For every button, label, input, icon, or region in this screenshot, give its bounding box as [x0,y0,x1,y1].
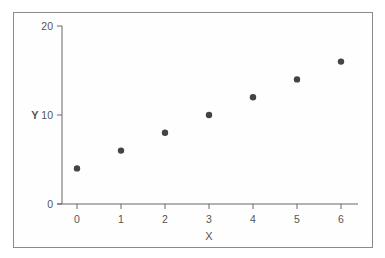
data-point [338,58,344,64]
y-tick-label: 20 [41,20,53,32]
x-tick-label: 1 [118,213,124,225]
x-tick-label: 6 [338,213,344,225]
x-tick-label: 4 [250,213,256,225]
x-tick-label: 2 [162,213,168,225]
y-axis-label: Y [31,109,39,121]
data-points [74,58,344,171]
data-point [118,147,124,153]
data-point [206,112,212,118]
y-tick-label: 0 [47,198,53,210]
scatter-plot: 010200123456 X Y [0,0,385,258]
x-tick-label: 3 [206,213,212,225]
data-point [294,76,300,82]
x-axis-label: X [205,230,213,242]
y-tick-label: 10 [41,109,53,121]
x-tick-label: 5 [294,213,300,225]
x-tick-label: 0 [74,213,80,225]
axes: 010200123456 [41,20,358,225]
data-point [74,165,80,171]
data-point [250,94,256,100]
data-point [162,130,168,136]
